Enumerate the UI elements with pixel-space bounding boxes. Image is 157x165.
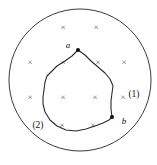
node-point-b — [110, 115, 114, 119]
node-label-b: b — [122, 116, 127, 126]
field-into-page-icon: × — [27, 92, 32, 102]
figure-canvas: ×××××××××××× ab (1)(2) — [0, 0, 157, 165]
node-label-a: a — [66, 40, 71, 50]
field-into-page-icon: × — [120, 92, 125, 102]
field-into-page-icon: × — [27, 57, 32, 67]
field-into-page-icon: × — [92, 92, 97, 102]
closed-loop-path — [43, 50, 113, 131]
field-into-page-icon: × — [60, 92, 65, 102]
field-into-page-icon: × — [60, 22, 65, 32]
field-into-page-icon: × — [93, 22, 98, 32]
path-2-label: (2) — [32, 120, 43, 131]
path-1-label: (1) — [128, 89, 139, 100]
magnetic-field-loop-figure: ×××××××××××× ab (1)(2) — [0, 0, 157, 165]
field-into-page-icon: × — [90, 120, 95, 130]
field-into-page-icon: × — [121, 57, 126, 67]
node-point-a — [76, 48, 80, 52]
